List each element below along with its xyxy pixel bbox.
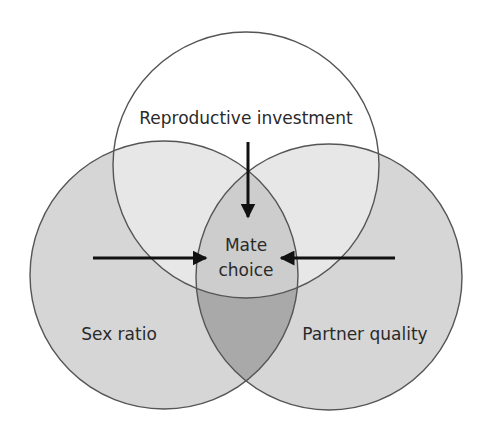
sex-ratio-label: Sex ratio xyxy=(81,324,157,344)
reproductive-investment-label: Reproductive investment xyxy=(139,108,353,128)
venn-diagram: Reproductive investment Sex ratio Partne… xyxy=(0,0,489,431)
partner-quality-label: Partner quality xyxy=(302,324,427,344)
mate-choice-label-line1: Mate xyxy=(225,235,267,255)
mate-choice-label-line2: choice xyxy=(218,260,273,280)
